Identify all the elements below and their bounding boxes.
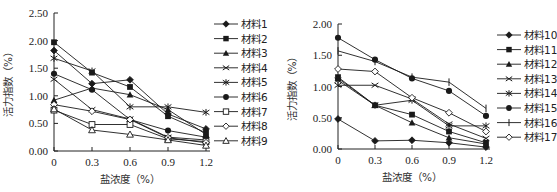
right-chart-legend-item: 材料11 bbox=[497, 44, 557, 56]
figure: 0.000.501.001.502.002.5000.30.60.91.2盐浓度… bbox=[0, 0, 557, 192]
right-chart-y-tick-label: 2.00 bbox=[313, 18, 333, 30]
right-chart-legend-label: 材料12 bbox=[524, 58, 557, 70]
right-chart-legend-label: 材料17 bbox=[524, 131, 557, 143]
right-chart-y-tick-label: 1.50 bbox=[313, 49, 333, 61]
right-chart-x-tick-label: 0.6 bbox=[405, 154, 419, 166]
right-chart-y-tick-label: 0.00 bbox=[313, 143, 333, 155]
right-chart-x-tick-label: 1.2 bbox=[479, 154, 493, 166]
right-chart-legend-item: 材料16 bbox=[497, 117, 557, 129]
chart-right: 0.000.501.001.502.0000.30.60.91.2盐浓度（%）活… bbox=[0, 0, 557, 192]
right-chart-y-tick-label: 0.50 bbox=[313, 112, 333, 124]
right-chart-legend-item: 材料10 bbox=[497, 29, 557, 41]
right-chart-y-tick-label: 1.00 bbox=[313, 81, 333, 93]
right-chart-legend-label: 材料10 bbox=[524, 29, 557, 41]
right-chart-y-axis-title: 活力指数（%） bbox=[286, 52, 298, 122]
right-chart-legend-item: 材料12 bbox=[497, 58, 557, 70]
right-chart-legend-item: 材料13 bbox=[497, 73, 557, 85]
right-chart-series-3 bbox=[335, 75, 490, 147]
right-chart-x-tick-label: 0.3 bbox=[368, 154, 382, 166]
right-chart-legend-item: 材料15 bbox=[497, 102, 557, 114]
right-chart-x-tick-label: 0.9 bbox=[442, 154, 456, 166]
right-chart-legend-item: 材料14 bbox=[497, 87, 557, 99]
right-chart-legend-label: 材料11 bbox=[524, 44, 557, 56]
right-chart-legend-label: 材料16 bbox=[524, 117, 557, 129]
right-chart-legend-label: 材料14 bbox=[524, 87, 557, 99]
right-chart-x-tick-label: 0 bbox=[335, 154, 341, 166]
right-chart-legend-item: 材料17 bbox=[497, 131, 557, 143]
right-chart-legend-label: 材料15 bbox=[524, 102, 557, 114]
right-chart-x-axis-title: 盐浓度（%） bbox=[382, 171, 442, 183]
right-chart-legend-label: 材料13 bbox=[524, 73, 557, 85]
